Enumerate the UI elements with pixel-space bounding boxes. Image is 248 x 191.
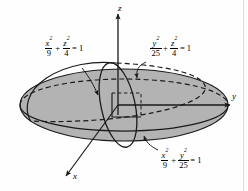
x-axis-label: x <box>73 172 77 181</box>
yz-term-1: y2 25 <box>150 38 162 58</box>
yz-rhs: = 1 <box>179 44 191 53</box>
xy-rhs: = 1 <box>189 156 201 165</box>
ellipsoid-figure: z y x x2 9 + z2 4 = 1 y2 25 + z2 4 = 1 x… <box>0 0 248 191</box>
xy-trace-equation: x2 9 + y2 25 = 1 <box>160 150 202 170</box>
yz-trace-equation: y2 25 + z2 4 = 1 <box>150 38 191 58</box>
xz-term-1: x2 9 <box>44 38 54 58</box>
xy-term-2: y2 25 <box>178 150 190 170</box>
xz-term-2: z2 4 <box>62 38 71 58</box>
yz-operator: + <box>162 44 170 53</box>
xz-operator: + <box>54 44 62 53</box>
yz-term-2: z2 4 <box>169 38 178 58</box>
xy-term-1: x2 9 <box>160 150 170 170</box>
z-axis-label: z <box>118 4 122 13</box>
y-axis-label: y <box>232 92 236 101</box>
xz-trace-equation: x2 9 + z2 4 = 1 <box>44 38 83 58</box>
xy-operator: + <box>170 156 178 165</box>
xz-rhs: = 1 <box>71 44 83 53</box>
figure-graphics <box>0 0 248 191</box>
